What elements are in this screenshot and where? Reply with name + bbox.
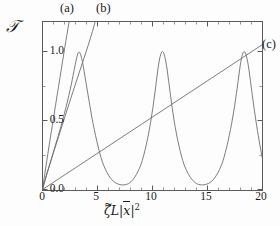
x-axis-major-ticks xyxy=(43,22,263,191)
y-axis-major-ticks xyxy=(43,52,263,190)
y-tick-label-1-0: 1.0 xyxy=(50,45,64,57)
curve-resonance xyxy=(43,51,263,189)
y-axis-title: 𝒯 xyxy=(6,18,19,35)
x-tick-label-20: 20 xyxy=(249,191,273,203)
x-axis-title-overbar xyxy=(123,201,130,202)
curve-label-c: (c) xyxy=(262,38,276,51)
x-axis-title-x: x xyxy=(123,203,130,218)
x-axis-title: ζ~L|x|2 xyxy=(104,203,140,218)
x-tick-label-15: 15 xyxy=(194,191,218,203)
y-tick-label-0-5: 0.5 xyxy=(50,114,64,126)
curve-label-a: (a) xyxy=(60,2,74,15)
x-tick-label-0: 0 xyxy=(30,191,54,203)
curve-label-b: (b) xyxy=(96,2,111,15)
transmission-plot-figure: (a) (b) (c) 𝒯 1.0 0.5 0.0 0 5 10 15 20 ζ… xyxy=(0,0,280,226)
plot-frame xyxy=(43,22,263,191)
y-axis-minor-ticks xyxy=(43,87,263,156)
x-axis-title-exponent: 2 xyxy=(135,202,140,212)
x-axis-title-tilde: ~ xyxy=(104,199,111,209)
axes-border xyxy=(43,22,263,191)
curve-c xyxy=(43,45,263,190)
x-tick-label-10: 10 xyxy=(139,191,163,203)
